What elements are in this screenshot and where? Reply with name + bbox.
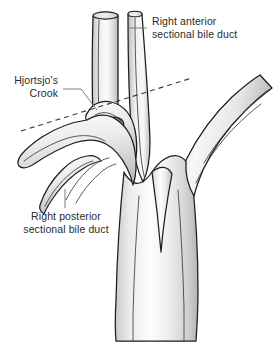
label-posterior-line2: sectional bile duct	[23, 223, 108, 235]
right-lateral-duct-branch	[186, 75, 272, 196]
label-crook-line1: Hjortsjo's	[14, 74, 58, 86]
label-right-posterior-sectional-bile-duct: Right posterior sectional bile duct	[23, 210, 108, 235]
right-posterior-sectional-bile-duct	[18, 115, 136, 214]
illustration-canvas: Right anterior sectional bile duct Hjort…	[0, 0, 273, 345]
label-hjortsjos-crook: Hjortsjo's Crook	[14, 74, 59, 99]
label-crook-line2: Crook	[29, 87, 58, 99]
label-posterior-line1: Right posterior	[31, 210, 101, 222]
biliary-anatomy-figure: Right anterior sectional bile duct Hjort…	[0, 0, 273, 345]
label-right-anterior-sectional-bile-duct: Right anterior sectional bile duct	[152, 15, 237, 40]
label-anterior-line1: Right anterior	[152, 15, 217, 27]
label-anterior-line2: sectional bile duct	[152, 28, 237, 40]
